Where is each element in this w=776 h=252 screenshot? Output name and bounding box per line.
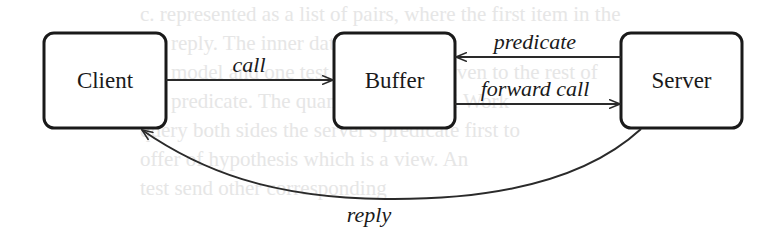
- edge-reply: reply: [142, 129, 641, 227]
- reply-label: reply: [347, 202, 392, 227]
- predicate-label: predicate: [492, 29, 576, 54]
- server-label: Server: [651, 68, 711, 93]
- edge-predicate: predicate: [456, 29, 621, 57]
- forward-call-label: forward call: [481, 76, 590, 101]
- reply-arrow: [142, 129, 641, 199]
- client-node: Client: [44, 33, 166, 128]
- call-label: call: [233, 52, 266, 77]
- message-flow-diagram: Client Buffer Server call predicate forw…: [0, 0, 776, 252]
- buffer-label: Buffer: [365, 68, 425, 93]
- edge-call: call: [166, 52, 333, 80]
- edge-forward-call: forward call: [455, 76, 620, 104]
- buffer-node: Buffer: [334, 33, 455, 128]
- server-node: Server: [621, 33, 742, 128]
- client-label: Client: [77, 68, 134, 93]
